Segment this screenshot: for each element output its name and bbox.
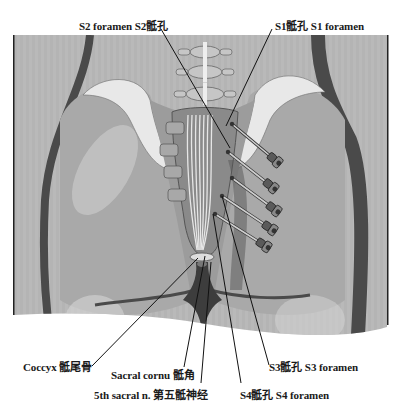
- label-s3-foramen: S3骶孔 S3 foramen: [269, 361, 358, 374]
- spinous-process: [203, 42, 207, 62]
- needle-tip: [230, 122, 234, 126]
- right-lower-highlight: [275, 295, 345, 345]
- label-sacral-cornu: Sacral cornu 骶角: [111, 369, 194, 382]
- label-s4-foramen: S4骶孔 S4 foramen: [240, 389, 329, 402]
- label-fifth-sacral-nerve: 5th sacral n. 第五骶神经: [94, 389, 208, 402]
- transverse-process: [178, 49, 190, 55]
- anatomy-artwork: [14, 35, 389, 355]
- sacral-segment: [168, 189, 186, 201]
- label-coccyx: Coccyx 骶尾骨: [23, 361, 92, 374]
- transverse-process: [174, 91, 186, 97]
- needle-tip: [226, 150, 230, 154]
- frame-border-right: [387, 35, 389, 325]
- sacral-segment: [166, 122, 184, 134]
- transverse-process: [220, 49, 232, 55]
- spinous-process: [203, 62, 207, 83]
- sacral-nerve-block-illustration: [0, 0, 402, 406]
- coccyx-tip: [197, 261, 207, 267]
- coccyx: [190, 253, 214, 261]
- label-s1-foramen: S1骶孔 S1 foramen: [275, 20, 364, 33]
- sacral-segment: [160, 144, 178, 156]
- frame-border-left: [13, 35, 15, 315]
- label-s2-foramen: S2 foramen S2骶孔: [79, 20, 168, 33]
- sacral-segment: [164, 166, 182, 178]
- needle-tip: [230, 176, 234, 180]
- transverse-process: [224, 91, 236, 97]
- transverse-process: [222, 69, 234, 75]
